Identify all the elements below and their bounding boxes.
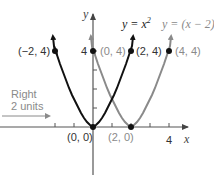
y-tick-4: 4: [81, 45, 87, 57]
curve1-exponent: 2: [147, 16, 151, 25]
label-point-0-4: (0, 4): [100, 45, 126, 57]
label-point-2-4: (2, 4): [136, 45, 162, 57]
y-axis-label: y: [82, 7, 89, 21]
curve1-label: y = x: [121, 17, 147, 31]
point-2-0: [128, 124, 134, 130]
legend-base-curve: y = x2: [121, 16, 151, 31]
point-2-4: [128, 48, 134, 54]
y-axis: [93, 14, 97, 175]
svg-text:y = x2: y = x2: [121, 16, 151, 31]
legend-shifted-curve: y = (x − 2)2: [161, 16, 214, 31]
point-0-4: [90, 48, 96, 54]
shift-note-line1: Right: [11, 88, 37, 100]
svg-text:y = (x − 2)2: y = (x − 2)2: [161, 16, 214, 31]
x-axis-label: x: [183, 132, 190, 146]
x-tick-4: 4: [166, 134, 172, 146]
label-point-0-0: (0, 0): [67, 131, 93, 143]
shift-note-line2: 2 units: [11, 100, 44, 112]
parabola-shift-chart: y x 4 4 (−2, 4) (0, 4) (2, 4) (4, 4) (0,…: [0, 0, 214, 178]
label-point-2-0: (2, 0): [108, 131, 134, 143]
point-neg2-4: [52, 48, 58, 54]
point-0-0: [90, 124, 96, 130]
label-point-neg2-4: (−2, 4): [18, 45, 50, 57]
label-point-4-4: (4, 4): [175, 45, 201, 57]
curve2-label: y = (x − 2): [161, 17, 214, 31]
point-4-4: [166, 48, 172, 54]
